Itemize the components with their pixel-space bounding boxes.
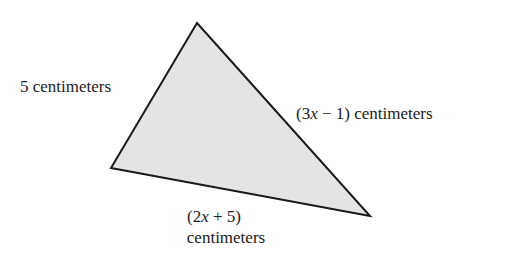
left-side-label: 5 centimeters <box>20 78 111 95</box>
right-side-label: (3x − 1) centimeters <box>296 105 433 122</box>
bottom-side-label-unit: centimeters <box>172 229 280 246</box>
bottom-side-label-expr: (2x + 5) <box>172 208 256 225</box>
